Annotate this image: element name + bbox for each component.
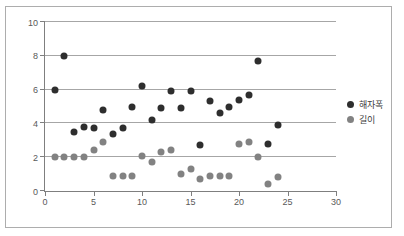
y-axis-tick-label: 8 [33,51,38,61]
data-point-해자폭 [197,142,204,149]
data-point-길이 [216,172,223,179]
legend: 해자폭 길이 [347,97,383,127]
chart-frame: 0246810051015202530 해자폭 길이 [5,6,392,228]
data-point-해자폭 [168,88,175,95]
legend-item-series1: 해자폭 [347,97,383,112]
data-point-해자폭 [265,140,272,147]
x-axis-tick-label: 5 [91,197,96,207]
gridline-y8 [45,55,336,56]
data-point-해자폭 [236,96,243,103]
gridline-y10 [45,21,336,22]
x-axis-tick-label: 30 [331,197,341,207]
x-axis-tick-label: 25 [282,197,292,207]
series1-marker-icon [347,101,354,108]
data-point-해자폭 [100,106,107,113]
data-point-길이 [168,147,175,154]
data-point-길이 [226,172,233,179]
data-point-해자폭 [158,105,165,112]
plot-area: 0246810051015202530 [44,22,336,192]
y-axis-tick [40,55,45,56]
data-point-해자폭 [206,98,213,105]
x-axis-tick-label: 20 [234,197,244,207]
data-point-해자폭 [148,117,155,124]
x-axis-tick-label: 10 [137,197,147,207]
data-point-길이 [80,154,87,161]
series2-marker-icon [347,116,354,123]
data-point-길이 [109,172,116,179]
x-axis-tick [288,191,289,196]
data-point-해자폭 [90,125,97,132]
data-point-해자폭 [51,86,58,93]
gridline-y2 [45,156,336,157]
y-axis-tick [40,122,45,123]
data-point-길이 [206,172,213,179]
data-point-길이 [236,140,243,147]
data-point-길이 [129,172,136,179]
y-axis-tick-label: 4 [33,119,38,129]
data-point-해자폭 [226,103,233,110]
data-point-길이 [255,154,262,161]
data-point-길이 [197,176,204,183]
x-axis-tick-label: 15 [185,197,195,207]
data-point-길이 [177,171,184,178]
data-point-해자폭 [177,105,184,112]
y-axis-tick-label: 10 [28,18,38,28]
data-point-해자폭 [255,57,262,64]
data-point-해자폭 [71,128,78,135]
data-point-길이 [100,139,107,146]
x-axis-tick [45,191,46,196]
legend-item-series2: 길이 [347,112,383,127]
data-point-해자폭 [119,125,126,132]
data-point-길이 [71,154,78,161]
gridline-y4 [45,122,336,123]
data-point-길이 [51,154,58,161]
y-axis-tick [40,21,45,22]
data-point-길이 [139,152,146,159]
data-point-길이 [148,159,155,166]
y-axis-tick-label: 2 [33,153,38,163]
data-point-해자폭 [129,103,136,110]
data-point-해자폭 [61,52,68,59]
x-axis-tick [239,191,240,196]
data-point-해자폭 [274,122,281,129]
data-point-길이 [158,149,165,156]
legend-label-series2: 길이 [359,113,375,126]
y-axis-tick [40,156,45,157]
y-axis-tick-label: 0 [33,187,38,197]
data-point-길이 [187,166,194,173]
y-axis-tick-label: 6 [33,85,38,95]
data-point-해자폭 [109,130,116,137]
data-point-해자폭 [139,83,146,90]
data-point-해자폭 [245,91,252,98]
x-axis-tick [142,191,143,196]
data-point-길이 [245,139,252,146]
data-point-길이 [265,181,272,188]
x-axis-tick [336,191,337,196]
data-point-해자폭 [187,88,194,95]
data-point-길이 [90,147,97,154]
data-point-길이 [274,174,281,181]
data-point-길이 [119,172,126,179]
x-axis-tick [191,191,192,196]
x-axis-tick-label: 0 [42,197,47,207]
y-axis-tick [40,89,45,90]
x-axis-tick [94,191,95,196]
legend-label-series1: 해자폭 [359,98,383,111]
data-point-길이 [61,154,68,161]
data-point-해자폭 [216,110,223,117]
data-point-해자폭 [80,123,87,130]
